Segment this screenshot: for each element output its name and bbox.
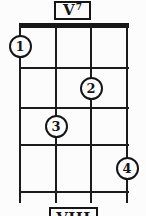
chord-label-box: V7 (54, 1, 91, 20)
chord-diagram: V7 1234 VIII (0, 0, 146, 216)
next-chord-label: VIII (56, 211, 91, 216)
finger-1-marker: 1 (9, 35, 32, 58)
nut-line (19, 23, 129, 28)
string-line-2 (55, 24, 57, 203)
finger-3-marker: 3 (45, 115, 68, 138)
fret-line-1 (19, 67, 129, 69)
fret-line-2 (19, 107, 129, 109)
chord-label: V (63, 3, 75, 18)
next-chord-label-box: VIII (49, 207, 98, 216)
fret-line-3 (19, 144, 129, 146)
finger-4-marker: 4 (116, 157, 139, 180)
fret-line-4 (19, 191, 129, 193)
finger-2-marker: 2 (80, 77, 103, 100)
string-line-3 (90, 24, 92, 203)
chord-label-superscript: 7 (76, 3, 82, 12)
